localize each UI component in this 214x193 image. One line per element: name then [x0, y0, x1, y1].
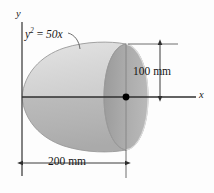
- y-axis-label: y: [16, 9, 21, 20]
- length-dimension-label: 200 mm: [48, 156, 86, 168]
- curve-equation-label: y2 = 50x: [25, 29, 63, 41]
- radius-dimension-label: 100 mm: [133, 66, 171, 78]
- paraboloid-figure: y2 = 50x y x 100 mm 200 mm: [0, 0, 214, 193]
- origin-centroid-dot: [123, 94, 130, 101]
- x-axis-label: x: [199, 90, 204, 101]
- equation-operator: =: [34, 28, 46, 40]
- equation-right: 50x: [46, 28, 63, 40]
